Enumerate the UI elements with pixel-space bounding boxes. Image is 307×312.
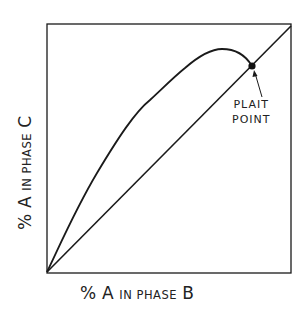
diagonal-line: [47, 26, 291, 272]
plait-point-arrow-shaft: [255, 73, 262, 97]
y-label-phase: C: [15, 115, 35, 127]
x-label-component: A: [102, 283, 114, 303]
y-label-component: A: [15, 196, 35, 208]
x-label-phase: B: [182, 283, 194, 303]
distribution-curve: [47, 49, 252, 272]
plait-point-arrowhead: [253, 70, 258, 77]
x-axis-label: % A IN PHASE B: [80, 283, 194, 303]
y-axis-label: % A IN PHASE C: [15, 115, 35, 230]
plait-point-label-line2: POINT: [232, 112, 270, 127]
phase-diagram: [0, 0, 307, 312]
plait-point-label-line1: PLAIT: [232, 97, 270, 112]
y-label-text: IN PHASE: [20, 133, 34, 191]
plait-point-marker: [248, 62, 255, 69]
plait-point-label: PLAIT POINT: [232, 97, 270, 127]
y-label-percent: %: [15, 213, 35, 230]
x-label-percent: %: [80, 283, 97, 303]
x-label-text: IN PHASE: [119, 288, 177, 302]
